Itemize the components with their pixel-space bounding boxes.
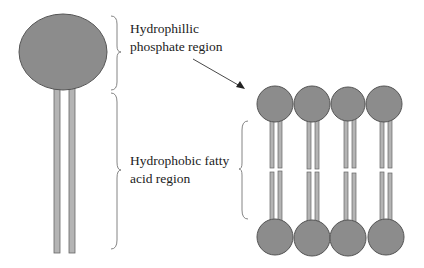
bilayer-tail-brace [239,121,248,219]
bottom-head-1 [257,219,293,255]
tail-region-brace [111,93,121,249]
tail-region-label-line1: Hydrophobic fatty [130,152,229,170]
bottom-molecule-2 [307,172,319,224]
top-head-2 [294,86,330,122]
top-molecule-2 [307,118,319,169]
tail-region-label-line2: acid region [130,170,229,188]
head-region-label: Hydrophillic phosphate region [130,20,223,56]
bottom-head-2 [294,220,330,256]
single-phospholipid [19,14,107,253]
head-region-label-line2: phosphate region [130,38,223,56]
bottom-molecule-4 [380,172,392,225]
phosphate-head [19,14,107,90]
top-head-4 [366,86,402,122]
bottom-head-4 [368,219,404,255]
bilayer-top-leaflet [257,86,402,169]
arrowhead-icon [236,81,245,89]
fatty-acid-tail-right [69,86,75,253]
bottom-head-3 [330,220,366,256]
head-region-label-line1: Hydrophillic [130,20,223,38]
bottom-molecule-3 [344,172,356,225]
top-head-1 [257,86,293,122]
head-region-brace [111,16,121,90]
pointer-arrow [193,59,245,89]
top-molecule-4 [380,118,392,168]
top-molecule-1 [270,118,282,168]
fatty-acid-tail-left [54,86,60,253]
top-head-3 [331,87,365,121]
bottom-molecule-1 [270,171,282,224]
top-molecule-3 [344,118,356,168]
bilayer-bottom-leaflet [257,171,404,256]
tail-region-label: Hydrophobic fatty acid region [130,152,229,188]
